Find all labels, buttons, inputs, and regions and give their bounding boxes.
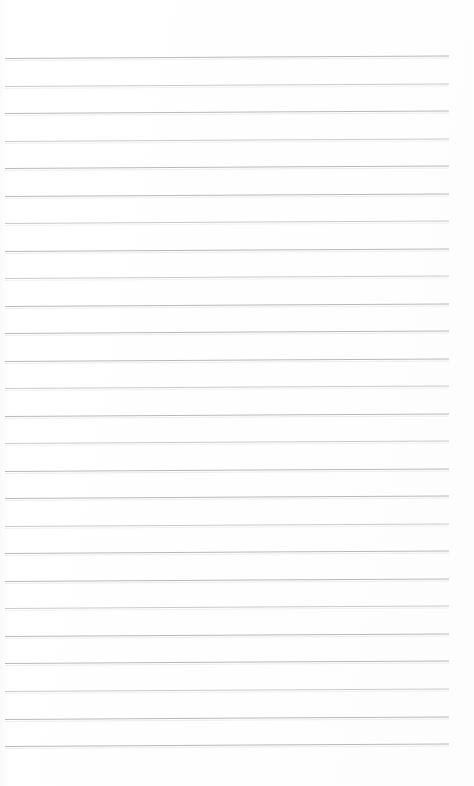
ruled-line [5,110,449,114]
ruled-line [5,83,449,87]
document-page [0,0,474,786]
ruled-line [5,385,449,389]
ruled-line [5,55,449,59]
ruled-line [5,605,449,609]
ruled-line [5,275,449,279]
ruled-line [5,633,449,637]
ruled-line [5,138,449,142]
ruled-line [5,523,449,527]
ruled-line [5,220,449,224]
ruled-line [5,468,449,472]
ruled-line [5,248,449,252]
ruled-line [5,550,449,554]
ruled-line [5,440,449,444]
ruled-line [5,716,449,720]
ruled-line [5,495,449,499]
ruled-line [5,688,449,692]
ruled-line [5,165,449,169]
ruled-line [5,660,449,664]
ruled-line [5,303,449,307]
ruled-line [5,358,449,362]
ruled-lines-layer [0,0,474,786]
ruled-line [5,413,449,417]
ruled-line [5,193,449,197]
ruled-line [5,330,449,334]
ruled-line [5,743,449,747]
ruled-line [5,578,449,582]
